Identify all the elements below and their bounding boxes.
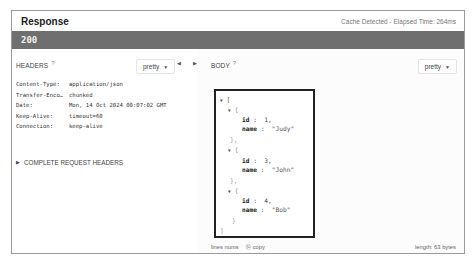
- json-line: name : "Bob": [242, 206, 290, 214]
- json-sep: :: [257, 166, 272, 173]
- pane-divider: ◀ ▶: [177, 56, 197, 70]
- json-sep: :: [257, 125, 272, 132]
- json-sep: :: [249, 197, 264, 204]
- headers-table: Content-Type: application/json Transfer-…: [16, 79, 167, 132]
- body-footer: lines nums ⎘ copy length: 63 bytes: [211, 242, 456, 252]
- header-value: application/json: [69, 81, 123, 87]
- json-value: "Bob": [272, 206, 291, 213]
- json-brace: },: [230, 177, 237, 184]
- status-code: 200: [21, 35, 37, 45]
- header-row: Keep-Alive: timeout=60: [16, 111, 167, 122]
- json-value: 3,: [264, 157, 271, 164]
- json-line: id : 1,: [242, 116, 272, 124]
- complete-request-headers-label: COMPLETE REQUEST HEADERS: [24, 159, 123, 166]
- line-numbers-toggle[interactable]: lines nums: [211, 244, 239, 250]
- response-titlebar: Response Cache Detected - Elapsed Time: …: [12, 11, 464, 31]
- json-line: ▼ {: [228, 187, 238, 196]
- json-line: name : "John": [242, 166, 294, 174]
- header-key: Keep-Alive:: [16, 113, 69, 119]
- response-title: Response: [21, 16, 69, 27]
- headers-label: HEADERS: [16, 62, 48, 69]
- body-format-select[interactable]: pretty ▼: [418, 59, 457, 74]
- header-value: chunked: [69, 92, 93, 98]
- body-format-value: pretty: [425, 63, 441, 70]
- json-line: ▼ {: [228, 106, 238, 115]
- json-value: "John": [272, 166, 294, 173]
- response-panel: Response Cache Detected - Elapsed Time: …: [11, 10, 465, 254]
- header-key: Date:: [16, 102, 69, 108]
- json-line: },: [230, 136, 237, 144]
- body-pane: BODY ? pretty ▼ ▼ [ ▼ { id : 1, name : "…: [197, 49, 464, 253]
- json-sep: :: [249, 116, 264, 123]
- collapse-toggle-icon[interactable]: ▼: [228, 108, 231, 113]
- json-value: 1,: [264, 116, 271, 123]
- headers-format-select[interactable]: pretty ▼: [136, 59, 175, 74]
- header-row: Content-Type: application/json: [16, 79, 167, 90]
- json-value: 4,: [264, 197, 271, 204]
- copy-label: copy: [253, 244, 265, 250]
- json-line: name : "Judy": [242, 125, 294, 133]
- caret-right-icon: ▶: [16, 160, 20, 165]
- json-key: name: [242, 166, 257, 173]
- help-icon[interactable]: ?: [51, 60, 54, 66]
- json-key: name: [242, 125, 257, 132]
- collapse-toggle-icon[interactable]: ▼: [228, 148, 231, 153]
- header-row: Date: Mon, 14 Oct 2024 00:07:02 GMT: [16, 100, 167, 111]
- json-sep: :: [249, 157, 264, 164]
- json-bracket: ]: [220, 227, 224, 234]
- header-key: Transfer-Enco…: [16, 92, 69, 98]
- json-line: id : 4,: [242, 197, 272, 205]
- header-value: Mon, 14 Oct 2024 00:07:02 GMT: [69, 102, 167, 108]
- header-value: timeout=60: [69, 113, 103, 119]
- elapsed-time: Cache Detected - Elapsed Time: 264ms: [341, 18, 456, 25]
- header-row: Connection: keep-alive: [16, 121, 167, 132]
- complete-request-headers-toggle[interactable]: ▶ COMPLETE REQUEST HEADERS: [16, 159, 123, 166]
- headers-format-value: pretty: [143, 63, 159, 70]
- body-label: BODY: [211, 62, 230, 69]
- header-value: keep-alive: [69, 123, 103, 129]
- copy-icon: ⎘: [246, 244, 251, 251]
- json-bracket: [: [226, 96, 230, 103]
- chevron-down-icon: ▼: [445, 64, 450, 70]
- headers-pane: HEADERS ? pretty ▼ Content-Type: applica…: [12, 49, 193, 253]
- json-brace: },: [230, 136, 237, 143]
- header-row: Transfer-Enco… chunked: [16, 90, 167, 101]
- collapse-toggle-icon[interactable]: ▼: [228, 189, 231, 194]
- chevron-down-icon: ▼: [163, 64, 168, 70]
- json-line: ▼ [: [220, 96, 230, 105]
- json-viewer: ▼ [ ▼ { id : 1, name : "Judy" }, ▼ { id …: [214, 89, 315, 238]
- json-line: ]: [220, 227, 224, 235]
- json-line: ▼ {: [228, 146, 238, 155]
- json-line: }: [232, 217, 236, 225]
- collapse-left-icon[interactable]: ◀: [177, 60, 181, 66]
- copy-button[interactable]: ⎘ copy: [246, 244, 265, 251]
- json-brace: }: [232, 217, 236, 224]
- json-brace: {: [234, 146, 238, 153]
- header-key: Connection:: [16, 123, 69, 129]
- help-icon[interactable]: ?: [233, 60, 236, 66]
- json-line: id : 3,: [242, 157, 272, 165]
- json-sep: :: [257, 206, 272, 213]
- collapse-toggle-icon[interactable]: ▼: [220, 98, 223, 103]
- header-key: Content-Type:: [16, 81, 69, 87]
- status-bar: 200: [12, 31, 464, 49]
- json-brace: {: [234, 187, 238, 194]
- json-brace: {: [234, 106, 238, 113]
- body-length: length: 63 bytes: [415, 244, 456, 250]
- json-value: "Judy": [272, 125, 294, 132]
- json-key: name: [242, 206, 257, 213]
- json-line: },: [230, 177, 237, 185]
